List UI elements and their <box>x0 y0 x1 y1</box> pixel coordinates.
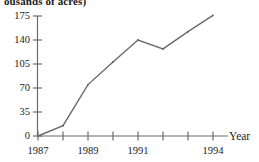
y-tick-label-105: 105 <box>2 59 30 70</box>
x-axis-title: Year <box>229 130 250 142</box>
x-tick-label-1994: 1994 <box>194 146 232 157</box>
y-tick-label-175: 175 <box>2 11 30 22</box>
y-tick-label-70: 70 <box>2 83 30 94</box>
line-chart-plot <box>0 0 259 162</box>
x-tick-label-1991: 1991 <box>119 146 157 157</box>
y-tick-label-35: 35 <box>2 107 30 118</box>
y-tick-label-0: 0 <box>2 131 30 142</box>
x-tick-label-1989: 1989 <box>69 146 107 157</box>
data-series-line <box>38 15 213 136</box>
chart-figure: ousands of acres) <box>0 0 259 162</box>
y-tick-label-140: 140 <box>2 35 30 46</box>
data-point-markers <box>62 14 214 126</box>
x-tick-label-1987: 1987 <box>19 146 57 157</box>
